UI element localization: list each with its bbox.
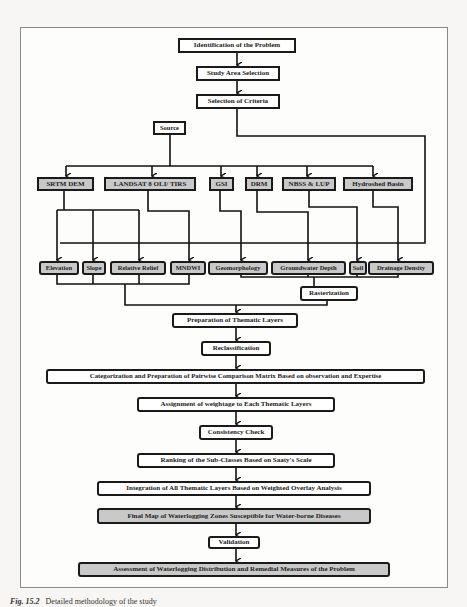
step-preparation-thematic-layers: Preparation of Thematic Layers — [172, 313, 298, 328]
step-final-map: Final Map of Waterlogging Zones Suscepti… — [97, 508, 371, 524]
layer-slope: Slope — [82, 261, 106, 275]
step-consistency-check: Consistency Check — [199, 425, 273, 440]
figure-label: Fig. 15.2 — [10, 597, 40, 606]
source-hydroshed-basin: Hydroshed Basin — [343, 177, 413, 191]
figure-caption: Fig. 15.2Detailed methodology of the stu… — [10, 597, 157, 606]
step-integration: Integration of All Thematic Layers Based… — [97, 481, 371, 496]
step-rasterization: Rasterization — [300, 286, 358, 301]
source-gsi: GSI — [209, 177, 234, 191]
step-reclassification: Reclassification — [201, 341, 271, 356]
layer-geomorphology: Geomorphology — [208, 261, 268, 275]
layer-mndwi: MNDWI — [170, 261, 206, 275]
source-label: Source — [153, 121, 186, 135]
step-assessment: Assessment of Waterlogging Distribution … — [78, 562, 390, 577]
layer-drainage-density: Drainage Density — [368, 261, 434, 275]
step-categorization: Categorization and Preparation of Pairwi… — [46, 369, 425, 384]
layer-relative-relief: Relative Relief — [110, 261, 166, 275]
step-identification: Identification of the Problem — [178, 38, 296, 53]
layer-groundwater-depth: Groundwater Depth — [271, 261, 346, 275]
layer-elevation: Elevation — [39, 261, 79, 275]
step-selection-criteria: Selection of Criteria — [196, 94, 280, 109]
source-srtm-dem: SRTM DEM — [37, 177, 94, 191]
source-landsat: LANDSAT 8 OLI/ TIRS — [104, 177, 196, 191]
step-study-area: Study Area Selection — [196, 66, 280, 81]
step-validation: Validation — [208, 536, 260, 549]
step-ranking-sub-classes: Ranking of the Sub-Classes Based on Saat… — [137, 453, 335, 468]
figure-caption-text: Detailed methodology of the study — [46, 597, 157, 606]
source-nbss-lup: NBSS & LUP — [282, 177, 336, 191]
source-drm: DRM — [245, 177, 273, 191]
step-assignment-weightage: Assignment of weightage to Each Thematic… — [137, 397, 335, 412]
layer-soil: Soil — [349, 261, 367, 275]
